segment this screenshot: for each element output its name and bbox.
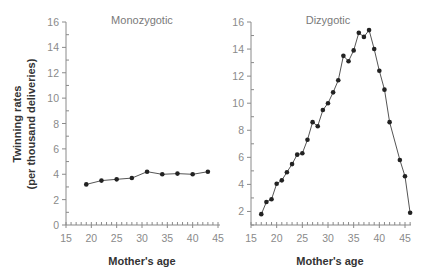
data-point bbox=[331, 90, 336, 95]
data-point bbox=[372, 47, 377, 52]
x-tick-label: 20 bbox=[271, 232, 283, 244]
y-tick-label: 2 bbox=[53, 194, 59, 206]
data-point bbox=[259, 212, 264, 217]
data-point bbox=[351, 48, 356, 53]
y-tick-label: 10 bbox=[232, 97, 244, 109]
data-point bbox=[398, 158, 403, 163]
y-tick-label: 14 bbox=[47, 41, 59, 53]
x-tick-label: 30 bbox=[136, 232, 148, 244]
data-point bbox=[114, 177, 119, 182]
x-tick-label: 40 bbox=[187, 232, 199, 244]
y-tick-label: 6 bbox=[238, 151, 244, 163]
data-point bbox=[84, 182, 89, 187]
x-tick-label: 25 bbox=[111, 232, 123, 244]
data-point bbox=[346, 59, 351, 64]
twinning-rates-chart: 024681012141615202530354045 246810121416… bbox=[0, 0, 425, 276]
y-tick-label: 0 bbox=[53, 219, 59, 231]
data-point bbox=[321, 108, 326, 113]
x-tick-label: 40 bbox=[373, 232, 385, 244]
data-point bbox=[269, 197, 274, 202]
y-tick-label: 2 bbox=[238, 205, 244, 217]
dizygotic-panel: 24681012141615202530354045 bbox=[232, 16, 412, 244]
x-tick-label: 15 bbox=[245, 232, 257, 244]
data-point bbox=[175, 171, 180, 176]
data-point bbox=[295, 152, 300, 157]
y-tick-label: 12 bbox=[47, 67, 59, 79]
x-tick-label: 45 bbox=[212, 232, 224, 244]
data-point bbox=[362, 35, 367, 40]
data-point bbox=[315, 124, 320, 129]
y-tick-label: 8 bbox=[238, 124, 244, 136]
data-point bbox=[274, 181, 279, 186]
y-tick-label: 10 bbox=[47, 92, 59, 104]
y-tick-label: 16 bbox=[232, 16, 244, 28]
x-tick-label: 35 bbox=[348, 232, 360, 244]
y-tick-label: 4 bbox=[53, 168, 59, 180]
data-point bbox=[310, 120, 315, 125]
data-point bbox=[280, 178, 285, 183]
data-point bbox=[285, 170, 290, 175]
data-point bbox=[382, 87, 387, 92]
data-point bbox=[264, 200, 269, 205]
data-point bbox=[190, 172, 195, 177]
x-tick-label: 20 bbox=[85, 232, 97, 244]
data-point bbox=[99, 178, 104, 183]
data-point bbox=[300, 151, 305, 156]
y-axis-title-line1: Twinning rates bbox=[11, 86, 23, 163]
monozygotic-title: Monozygotic bbox=[111, 14, 173, 26]
data-point bbox=[367, 28, 372, 33]
y-tick-label: 6 bbox=[53, 143, 59, 155]
data-point bbox=[336, 78, 341, 83]
monozygotic-panel: 024681012141615202530354045 bbox=[47, 16, 224, 244]
data-point bbox=[357, 31, 362, 36]
data-point bbox=[377, 68, 382, 73]
data-point bbox=[403, 174, 408, 179]
data-point bbox=[341, 54, 346, 59]
right-x-axis-title: Mother's age bbox=[296, 255, 363, 267]
data-point bbox=[305, 137, 310, 142]
data-point bbox=[160, 172, 165, 177]
data-point bbox=[387, 120, 392, 125]
x-tick-label: 25 bbox=[296, 232, 308, 244]
data-point bbox=[326, 101, 331, 106]
x-tick-label: 30 bbox=[322, 232, 334, 244]
x-tick-label: 35 bbox=[161, 232, 173, 244]
data-point bbox=[206, 169, 211, 174]
y-tick-label: 14 bbox=[232, 43, 244, 55]
y-axis-title-line2: (per thousand deliveries) bbox=[25, 58, 37, 189]
y-tick-label: 4 bbox=[238, 178, 244, 190]
y-tick-label: 12 bbox=[232, 70, 244, 82]
x-tick-label: 15 bbox=[60, 232, 72, 244]
data-point bbox=[145, 169, 150, 174]
dizygotic-title: Dizygotic bbox=[306, 14, 351, 26]
left-x-axis-title: Mother's age bbox=[108, 255, 175, 267]
data-point bbox=[408, 211, 413, 216]
data-point bbox=[290, 162, 295, 167]
data-point bbox=[130, 176, 135, 181]
y-tick-label: 8 bbox=[53, 118, 59, 130]
y-tick-label: 16 bbox=[47, 16, 59, 28]
x-tick-label: 45 bbox=[399, 232, 411, 244]
